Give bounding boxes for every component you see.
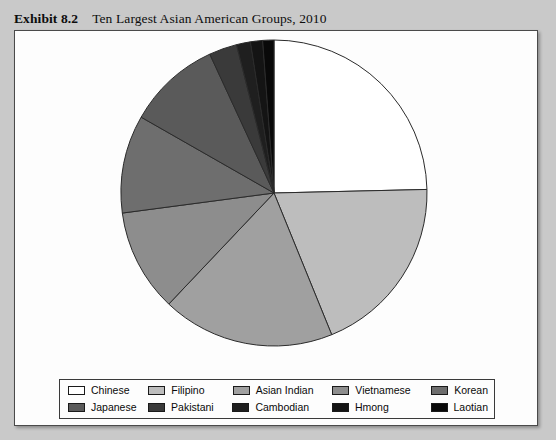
legend-item-filipino: Filipino [148,385,232,396]
pie-slice-group [121,40,427,346]
legend-label-cambodian: Cambodian [255,402,309,413]
legend-label-filipino: Filipino [171,385,204,396]
legend-item-chinese: Chinese [68,385,148,396]
legend-swatch-pakistani [148,403,165,412]
legend-label-hmong: Hmong [355,402,389,413]
legend-swatch-chinese [68,386,85,395]
legend-item-vietnamese: Vietnamese [332,385,431,396]
pie-slice-chinese [274,40,427,193]
exhibit-number: Exhibit 8.2 [14,11,78,27]
legend-label-pakistani: Pakistani [171,402,214,413]
legend-swatch-hmong [332,403,349,412]
legend-item-asian-indian: Asian Indian [233,385,333,396]
legend-label-vietnamese: Vietnamese [355,385,410,396]
legend-row-1: ChineseFilipinoAsian IndianVietnameseKor… [68,383,488,398]
legend-swatch-japanese [68,403,85,412]
legend-label-japanese: Japanese [91,402,137,413]
legend-swatch-asian-indian [233,386,250,395]
legend-label-chinese: Chinese [91,385,130,396]
exhibit-figure: Exhibit 8.2 Ten Largest Asian American G… [0,0,556,440]
legend-item-hmong: Hmong [332,402,431,413]
legend-item-laotian: Laotian [431,402,488,413]
pie-chart [15,31,539,371]
legend-swatch-filipino [148,386,165,395]
legend-swatch-laotian [431,403,448,412]
legend-label-laotian: Laotian [454,402,488,413]
legend-swatch-korean [431,386,448,395]
legend-item-cambodian: Cambodian [232,402,331,413]
exhibit-caption: Exhibit 8.2 Ten Largest Asian American G… [14,8,544,30]
legend-label-korean: Korean [454,385,488,396]
legend-swatch-cambodian [232,403,249,412]
legend-row-2: JapanesePakistaniCambodianHmongLaotian [68,400,488,415]
chart-legend: ChineseFilipinoAsian IndianVietnameseKor… [59,379,495,419]
legend-label-asian-indian: Asian Indian [256,385,314,396]
chart-panel: ChineseFilipinoAsian IndianVietnameseKor… [14,30,538,426]
legend-item-japanese: Japanese [68,402,148,413]
legend-item-pakistani: Pakistani [148,402,232,413]
exhibit-title: Ten Largest Asian American Groups, 2010 [92,11,326,27]
legend-swatch-vietnamese [332,386,349,395]
legend-item-korean: Korean [431,385,488,396]
pie-chart-svg [15,31,539,371]
